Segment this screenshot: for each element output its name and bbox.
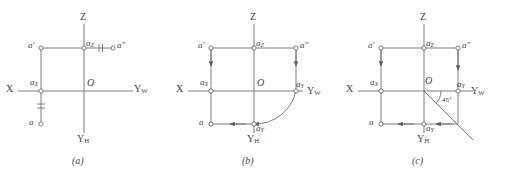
point-a-prime-marker xyxy=(379,46,383,50)
point-label-a-sub-y-h: aY xyxy=(256,124,264,133)
point-a-sub-y-w-marker xyxy=(456,89,460,93)
panel-caption-a: (a) xyxy=(72,156,84,166)
point-label-a-sub-z: aZ xyxy=(86,39,94,48)
arc-yw-to-yh xyxy=(254,91,296,124)
point-label-a-sub-y-w: aY xyxy=(457,80,465,89)
angle-label-45: 45° xyxy=(442,97,452,104)
point-label-a-prime: a′ xyxy=(28,41,34,50)
point-a-sub-x-marker xyxy=(39,89,43,93)
axis-label-yw: YW xyxy=(134,84,148,95)
point-label-a-double-prime: a″ xyxy=(462,41,470,50)
axis-label-z: Z xyxy=(80,12,86,22)
point-a-sub-y-w-marker xyxy=(294,89,298,93)
point-a-double-prime-marker xyxy=(294,46,298,50)
point-a-double-prime-marker xyxy=(456,46,460,50)
point-label-origin: O xyxy=(87,78,94,88)
axis-label-z: Z xyxy=(420,12,426,22)
point-label-a-sub-x: aX xyxy=(200,78,208,87)
point-label-a-plain: a xyxy=(199,118,204,127)
point-a-plain-marker xyxy=(39,122,43,126)
point-label-a-prime: a′ xyxy=(368,41,374,50)
panel-a: X Z YW YH a′ a″ aZ aX a O (a) xyxy=(0,0,170,178)
point-label-a-sub-y-w: aY xyxy=(296,80,304,89)
panel-c: X Z YW YH a′ a″ aZ aX aY aY a O 45° (c) xyxy=(340,0,510,178)
point-label-a-sub-z: aZ xyxy=(256,39,264,48)
point-label-a-sub-y-h: aY xyxy=(426,124,434,133)
axis-label-yw: YW xyxy=(471,86,485,97)
axis-label-yh: YH xyxy=(247,134,259,145)
point-a-prime-marker xyxy=(209,46,213,50)
point-label-origin: O xyxy=(425,76,432,86)
point-label-a-double-prime: a″ xyxy=(117,41,125,50)
axis-label-x: X xyxy=(6,84,13,94)
angle-arc-45 xyxy=(436,91,441,103)
axis-label-yh: YH xyxy=(417,134,429,145)
point-a-sub-x-marker xyxy=(379,89,383,93)
point-a-prime-marker xyxy=(39,46,43,50)
panel-caption-b: (b) xyxy=(242,156,254,166)
point-label-a-plain: a xyxy=(29,118,34,127)
point-label-a-double-prime: a″ xyxy=(300,41,308,50)
point-label-origin: O xyxy=(257,78,264,88)
axis-label-yw: YW xyxy=(307,86,321,97)
point-a-plain-marker xyxy=(209,122,213,126)
point-a-sub-x-marker xyxy=(209,89,213,93)
point-a-double-prime-marker xyxy=(111,46,115,50)
panel-b: X Z YW YH a′ a″ aZ aX aY aY a O (b) xyxy=(170,0,340,178)
point-label-a-plain: a xyxy=(369,118,374,127)
figure-canvas: X Z YW YH a′ a″ aZ aX a O (a) xyxy=(0,0,510,178)
point-label-a-sub-z: aZ xyxy=(426,39,434,48)
point-label-a-sub-x: aX xyxy=(370,78,378,87)
axis-label-z: Z xyxy=(250,12,256,22)
panel-caption-c: (c) xyxy=(412,156,423,166)
point-a-plain-marker xyxy=(379,122,383,126)
axis-label-x: X xyxy=(176,84,183,94)
axis-label-x: X xyxy=(346,84,353,94)
point-label-a-prime: a′ xyxy=(198,41,204,50)
point-label-a-sub-x: aX xyxy=(30,78,38,87)
axis-label-yh: YH xyxy=(77,134,89,145)
